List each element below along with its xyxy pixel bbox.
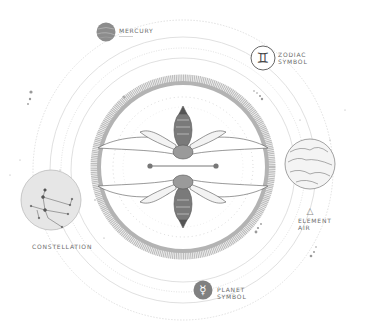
cicada-bottom <box>98 175 268 228</box>
astrology-diagram: △ <box>0 0 367 327</box>
element-label-line2: AIR <box>298 224 332 231</box>
cicada-top <box>98 106 268 159</box>
planet-symbol-label: PLANET SYMBOL <box>217 286 247 300</box>
constellation-circle <box>21 170 81 230</box>
element-label-line1: ELEMENT <box>298 217 332 224</box>
constellation-label: CONSTELLATION <box>32 243 92 250</box>
planet-label-line1: PLANET <box>217 286 247 293</box>
air-triangle-icon: △ <box>307 206 314 216</box>
mercury-planet <box>97 23 116 42</box>
element-air-circle: △ <box>285 139 335 216</box>
zodiac-symbol-label: ZODIAC SYMBOL <box>278 51 308 65</box>
zodiac-label-line2: SYMBOL <box>278 58 308 65</box>
mercury-glyph-icon: ☿ <box>196 281 210 299</box>
zodiac-label-line1: ZODIAC <box>278 51 308 58</box>
gemini-icon: ♊ <box>256 48 270 68</box>
divider-bar <box>147 163 218 168</box>
element-air-label: ELEMENT AIR <box>298 217 332 231</box>
planet-label-line2: SYMBOL <box>217 293 247 300</box>
mercury-sub-label <box>119 36 133 37</box>
mercury-label: MERCURY <box>119 27 153 34</box>
